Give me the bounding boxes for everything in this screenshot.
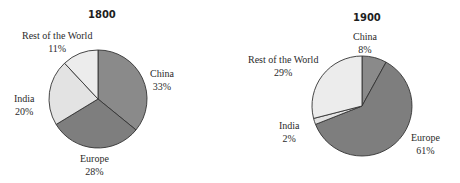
label-india-name: India	[14, 92, 35, 105]
chart-title-1800: 1800	[88, 9, 116, 20]
label-india-pct: 2%	[279, 132, 300, 145]
label-china-name: China	[150, 67, 174, 80]
pie-charts-canvas	[0, 0, 460, 183]
label-china-name: China	[353, 30, 377, 43]
label-europe-1900: Europe 61%	[411, 131, 440, 157]
label-rest-1800: Rest of the World 11%	[22, 29, 92, 55]
label-india-name: India	[279, 119, 300, 132]
label-china-1900: China 8%	[353, 30, 377, 56]
label-europe-1800: Europe 28%	[80, 152, 109, 178]
label-rest-pct: 11%	[22, 42, 92, 55]
label-europe-pct: 28%	[80, 165, 109, 178]
label-rest-name: Rest of the World	[22, 29, 92, 42]
label-europe-name: Europe	[80, 152, 109, 165]
label-rest-name: Rest of the World	[248, 53, 318, 66]
label-rest-pct: 29%	[248, 66, 318, 79]
label-europe-pct: 61%	[411, 144, 440, 157]
label-china-pct: 8%	[353, 43, 377, 56]
label-india-1800: India 20%	[14, 92, 35, 118]
label-china-1800: China 33%	[150, 67, 174, 93]
chart-title-1900: 1900	[353, 12, 381, 23]
label-europe-name: Europe	[411, 131, 440, 144]
label-china-pct: 33%	[150, 80, 174, 93]
pie-chart-1900	[312, 56, 412, 156]
label-india-1900: India 2%	[279, 119, 300, 145]
label-india-pct: 20%	[14, 105, 35, 118]
label-rest-1900: Rest of the World 29%	[248, 53, 318, 79]
pie-chart-1800	[49, 50, 147, 148]
